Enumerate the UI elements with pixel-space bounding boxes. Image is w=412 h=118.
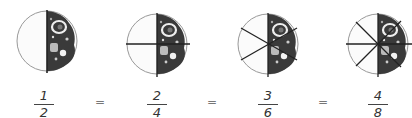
numerator: 2 [147, 89, 167, 105]
fraction-two-fourths: 2 4 [147, 89, 167, 118]
fraction-four-eighths: 4 8 [368, 89, 388, 118]
fraction-three-sixths: 3 6 [258, 89, 278, 118]
equals-sign: = [93, 95, 107, 109]
pizza-halves [17, 10, 77, 73]
pizza-quarters [126, 13, 190, 77]
equals-sign: = [205, 95, 219, 109]
numerator: 4 [368, 89, 388, 105]
pizza-eighths [346, 13, 412, 77]
denominator: 6 [258, 105, 278, 118]
equals-sign: = [316, 95, 330, 109]
denominator: 4 [147, 105, 167, 118]
fraction-one-half: 1 2 [34, 89, 54, 118]
numerator: 3 [258, 89, 278, 105]
denominator: 2 [34, 105, 54, 118]
pizza-sixths [238, 13, 298, 77]
denominator: 8 [368, 105, 388, 118]
numerator: 1 [34, 89, 54, 105]
